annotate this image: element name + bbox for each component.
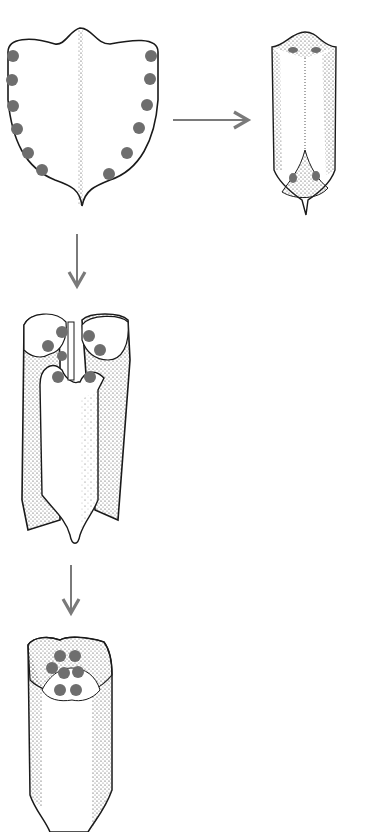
- diagram-canvas: [0, 0, 377, 832]
- stage-2-rolled-tube: [272, 32, 336, 215]
- midrib: [78, 30, 83, 205]
- stage-3-open-tube: [22, 314, 130, 543]
- stage-4-closed-tube: [28, 637, 112, 832]
- stage-1-flat-leaf: [6, 28, 158, 206]
